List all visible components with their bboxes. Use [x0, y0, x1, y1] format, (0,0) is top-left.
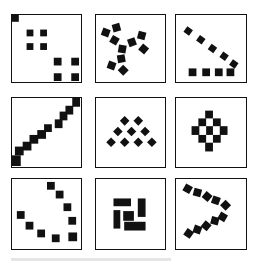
block-shape	[208, 44, 217, 53]
block-shape	[120, 116, 130, 126]
block-shape	[40, 43, 47, 50]
block-shape	[220, 200, 231, 211]
block-shape	[206, 126, 213, 135]
block-shape	[71, 73, 79, 81]
block-shape	[56, 191, 64, 199]
block-shape	[229, 59, 238, 68]
pattern-grid-figure	[0, 0, 258, 265]
panel-v-shaped-arrangement-of-squares	[11, 178, 82, 250]
block-shape	[201, 220, 212, 231]
block-shape	[215, 68, 223, 76]
block-shape	[120, 137, 130, 147]
block-shape	[137, 31, 147, 41]
block-shape	[112, 23, 122, 33]
block-shape	[205, 143, 213, 152]
block-shape	[213, 118, 221, 126]
block-shape	[198, 118, 206, 126]
block-shape	[17, 211, 25, 219]
block-shape	[124, 222, 145, 231]
block-shape	[189, 68, 197, 76]
block-shape	[55, 119, 63, 128]
panel-chevron-of-rotated-squares	[175, 178, 247, 250]
block-shape	[37, 230, 45, 238]
block-shape	[196, 35, 205, 44]
block-shape	[205, 111, 213, 119]
block-shape	[15, 147, 24, 156]
block-shape	[64, 203, 72, 211]
block-shape	[140, 127, 150, 137]
panel-diagonal-line-and-horizontal-row	[175, 14, 247, 83]
block-shape	[138, 198, 146, 216]
block-shape	[123, 211, 134, 221]
pattern-shapes	[176, 179, 246, 249]
block-shape	[27, 43, 34, 50]
block-shape	[26, 222, 34, 230]
pattern-shapes	[96, 179, 165, 249]
block-shape	[182, 183, 193, 194]
block-shape	[118, 44, 127, 53]
block-shape	[113, 210, 120, 228]
block-shape	[29, 135, 38, 144]
block-shape	[40, 30, 47, 37]
block-shape	[133, 116, 143, 126]
panel-triangular-array-of-diamonds	[95, 97, 166, 168]
block-shape	[65, 106, 73, 115]
block-shape	[213, 135, 221, 143]
panel-diamond-cluster-of-squares	[175, 97, 247, 168]
pattern-shapes	[12, 15, 81, 82]
block-shape	[27, 30, 34, 37]
block-shape	[101, 28, 111, 38]
block-shape	[133, 137, 143, 147]
block-shape	[72, 98, 80, 107]
block-shape	[106, 137, 116, 147]
pattern-shapes	[176, 15, 246, 82]
block-shape	[147, 137, 157, 147]
block-shape	[12, 155, 21, 166]
block-shape	[47, 182, 55, 190]
block-shape	[219, 52, 228, 61]
block-shape	[12, 15, 19, 22]
block-shape	[107, 61, 117, 71]
pattern-shapes	[96, 98, 165, 167]
block-shape	[54, 58, 62, 66]
block-shape	[54, 73, 62, 81]
block-shape	[117, 54, 126, 63]
block-shape	[113, 127, 123, 137]
block-shape	[193, 188, 203, 198]
block-shape	[68, 232, 77, 241]
block-shape	[68, 217, 76, 225]
block-shape	[118, 65, 129, 76]
block-shape	[220, 126, 228, 135]
block-shape	[192, 126, 200, 135]
block-shape	[109, 35, 120, 46]
block-shape	[183, 26, 192, 35]
panel-two-staircase-diagonals	[11, 97, 82, 168]
caption-illegible	[11, 258, 171, 261]
block-shape	[211, 195, 221, 205]
block-shape	[71, 58, 79, 66]
block-shape	[138, 44, 149, 55]
pattern-shapes	[12, 179, 81, 249]
block-shape	[52, 234, 60, 242]
block-shape	[202, 191, 213, 202]
block-shape	[44, 124, 52, 132]
panel-corner-square-plus-two-2x2-clusters	[11, 14, 82, 83]
block-shape	[113, 198, 130, 206]
block-shape	[183, 228, 194, 239]
pattern-shapes	[96, 15, 165, 82]
block-shape	[127, 127, 137, 137]
panel-interlocking-rectangles-block	[95, 178, 166, 250]
panel-three-armed-pinwheel-of-rotated-squares	[95, 14, 166, 83]
pattern-shapes	[12, 98, 81, 167]
block-shape	[127, 37, 137, 47]
block-shape	[227, 68, 235, 76]
block-shape	[202, 68, 210, 76]
pattern-shapes	[176, 98, 246, 167]
block-shape	[198, 135, 206, 143]
